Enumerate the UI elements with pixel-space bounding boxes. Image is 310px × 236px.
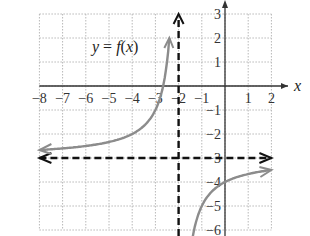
svg-text:−6: −6 — [206, 223, 221, 236]
function-label: y = f(x) — [90, 38, 138, 56]
svg-text:−7: −7 — [55, 91, 70, 106]
svg-text:2: 2 — [268, 91, 275, 106]
axes — [39, 0, 288, 236]
svg-text:−1: −1 — [206, 103, 221, 118]
grid — [39, 14, 271, 230]
svg-text:3: 3 — [214, 7, 221, 22]
svg-text:−4: −4 — [206, 175, 221, 190]
svg-text:−2: −2 — [206, 127, 221, 142]
svg-text:−5: −5 — [102, 91, 117, 106]
x-axis-label: x — [293, 77, 301, 94]
tick-labels: −8−7−6−5−4−3−2−112321−1−2−3−4−5−6 — [32, 7, 275, 236]
svg-text:1: 1 — [214, 55, 221, 70]
svg-text:−6: −6 — [78, 91, 93, 106]
svg-text:−5: −5 — [206, 199, 221, 214]
svg-text:2: 2 — [214, 31, 221, 46]
graph-canvas: −8−7−6−5−4−3−2−112321−1−2−3−4−5−6 y = f(… — [0, 0, 310, 236]
svg-text:−8: −8 — [32, 91, 47, 106]
svg-text:1: 1 — [245, 91, 252, 106]
svg-text:−4: −4 — [125, 91, 140, 106]
